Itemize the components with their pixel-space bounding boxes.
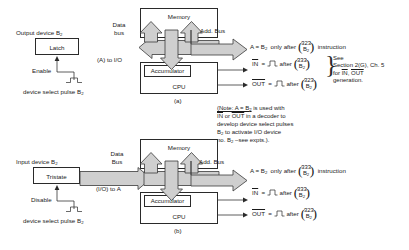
panel-b-addr-bus-label: Add. Bus	[199, 158, 224, 165]
panel-b-tristate-label: Tristate	[34, 173, 79, 180]
panel-b-device-label: Input device B2	[16, 158, 58, 167]
panel-a-eq3-mid: after	[286, 80, 298, 87]
panel-b-eq1-tail: instruction	[316, 167, 346, 174]
panel-b-eq3-mid: after	[286, 210, 298, 217]
panel-a-eq3-pulse-icon	[274, 80, 285, 87]
panel-a-side-note-line3: for IN, OUT	[333, 70, 384, 77]
panel-a-side-note: See Section 2(G), Ch. 5 for IN, OUT gene…	[333, 55, 384, 84]
panel-a-latch-box: Latch	[35, 38, 79, 55]
panel-b-tristate-box: Tristate	[33, 167, 80, 184]
panel-a-io-lines	[218, 62, 254, 96]
panel-a-eq2-code: 333 B2	[294, 57, 311, 71]
panel-a-eq2-lhs: IN	[252, 60, 258, 67]
panel-b-disable-label: Disable	[31, 196, 52, 203]
panel-b-pulse-caption: device select pulse B2	[23, 217, 84, 226]
panel-a-eq3-code: 323 B2	[301, 77, 318, 91]
panel-b-eq2-pulse-icon	[267, 189, 278, 196]
panel-a-pulse-caption: device select pulse B2	[23, 88, 84, 97]
panel-a-eq2-pulse-icon	[267, 60, 278, 67]
panel-b-eq3-pulse-icon	[274, 210, 285, 217]
panel-a-eq1-tail: instruction	[316, 43, 346, 50]
center-note-line-4: B2 to activate I/O device	[217, 129, 293, 137]
panel-b-eq1-mid: only after	[269, 167, 296, 174]
panel-a-equation-3: OUT = after 323 B2	[252, 77, 317, 91]
panel-a-enable-label: Enable	[32, 67, 51, 74]
panel-b-eq1-code: 333 B2	[298, 164, 315, 178]
panel-b-tag: (b)	[174, 227, 182, 234]
panel-a-device-label: Output device B2	[16, 29, 62, 38]
center-note-line-2: IN or OUT in a decoder to	[217, 113, 293, 121]
panel-b-eq2-mid: after	[280, 189, 292, 196]
panel-a-tag: (a)	[174, 97, 182, 104]
panel-b-eq3-code: 323 B2	[301, 207, 318, 221]
figure-root: Output device B2 Latch Enable device sel…	[0, 0, 409, 250]
panel-a-addr-bus-label: Add. Bus	[200, 27, 225, 34]
panel-a-eq3-lhs: OUT	[252, 80, 265, 87]
panel-a-eq1-code: 323 B2	[298, 40, 315, 54]
panel-b-eq2-lhs: IN	[252, 189, 258, 196]
panel-b-equation-2: IN = after 333 B2	[252, 186, 310, 200]
panel-a-equation-2: IN = after 333 B2	[252, 57, 310, 71]
panel-b-equation-1: A = B2 only after 333 B2 instruction	[250, 164, 346, 178]
panel-b-equation-3: OUT = after 323 B2	[252, 207, 317, 221]
panel-a-eq1-mid: only after	[269, 43, 296, 50]
panel-b-eq3-lhs: OUT	[252, 210, 265, 217]
panel-b-eq1-lhs: A = B2	[250, 167, 267, 174]
panel-a-eq2-mid: after	[280, 60, 292, 67]
panel-a-latch-label: Latch	[36, 44, 78, 51]
panel-b-eq2-code: 333 B2	[294, 186, 311, 200]
panel-b-io-lines	[218, 192, 254, 226]
panel-a-eq1-lhs: A = B2	[250, 43, 267, 50]
center-note-line-3: develop device select pulses	[217, 121, 293, 129]
